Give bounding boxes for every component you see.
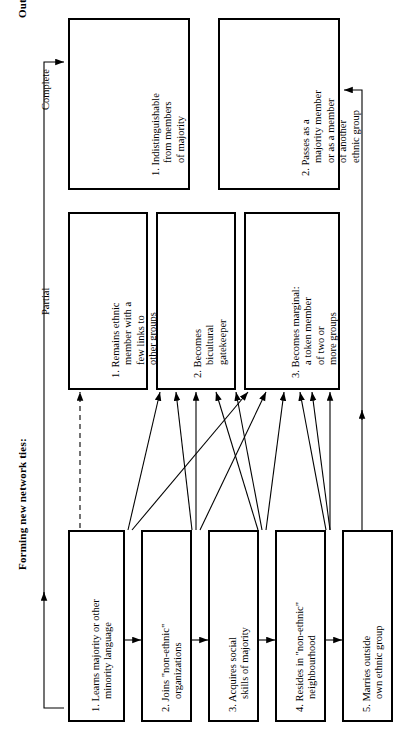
- box-text-line: or as a member: [325, 90, 337, 176]
- network-step-label-2: 2. Joins "non-ethnic" organizations: [160, 624, 185, 712]
- box-text-line: few links to: [135, 302, 147, 378]
- box-text-line: bicultural: [204, 319, 216, 378]
- box-text-line: majority member: [312, 90, 324, 176]
- page-title-network: Forming new network ties:: [16, 438, 28, 570]
- box-text-line: a token member: [302, 286, 314, 378]
- box-text-line: 2. Passes as a: [300, 90, 312, 176]
- network-step-label-1: 1. Learns majority or other minority lan…: [90, 599, 115, 712]
- column-header-partial: Partial: [40, 288, 51, 315]
- box-text-line: organizations: [172, 624, 184, 712]
- box-text-line: own ethnic group: [373, 625, 385, 712]
- box-text-line: of majority: [175, 93, 187, 176]
- box-text-line: from members: [162, 93, 174, 176]
- network-step-label-5: 5. Marries outside own ethnic group: [361, 625, 386, 712]
- partial-outcome-label-1: 1. Remains ethnic member with a few link…: [110, 302, 160, 378]
- column-header-complete: Complete: [40, 69, 51, 110]
- box-text-line: 1. Learns majority or other: [90, 599, 102, 712]
- box-text-line: 4. Resides in "non-ethnic": [294, 602, 306, 712]
- box-text-line: 5. Marries outside: [361, 625, 373, 712]
- box-text-line: 1. Indistinguishable: [150, 93, 162, 176]
- box-text-line: 2. Joins "non-ethnic": [160, 624, 172, 712]
- complete-outcome-label-2: 2. Passes as a majority member or as a m…: [300, 90, 362, 176]
- box-text-line: gatekeeper: [217, 319, 229, 378]
- box-text-line: more groups: [327, 286, 339, 378]
- box-text-line: 3. Becomes marginal:: [290, 286, 302, 378]
- complete-outcome-label-1: 1. Indistinguishable from members of maj…: [150, 93, 187, 176]
- box-text-line: member with a: [122, 302, 134, 378]
- box-text-line: minority language: [102, 599, 114, 712]
- box-text-line: neighbourhood: [306, 602, 318, 712]
- box-text-line: of another: [337, 90, 349, 176]
- partial-outcome-label-2: 2. Becomes bicultural gatekeeper: [192, 319, 229, 378]
- box-text-line: 3. Acquires social: [227, 627, 239, 712]
- box-text-line: ethnic group: [350, 90, 362, 176]
- partial-outcome-label-3: 3. Becomes marginal: a token member of t…: [290, 286, 340, 378]
- network-step-label-4: 4. Resides in "non-ethnic" neighbourhood: [294, 602, 319, 712]
- box-text-line: of two or: [315, 286, 327, 378]
- box-text-line: 2. Becomes: [192, 319, 204, 378]
- box-text-line: skills of majority: [239, 627, 251, 712]
- box-text-line: 1. Remains ethnic: [110, 302, 122, 378]
- page-title-outcome: Outcome: Assimilation: [16, 0, 28, 18]
- network-step-label-3: 3. Acquires social skills of majority: [227, 627, 252, 712]
